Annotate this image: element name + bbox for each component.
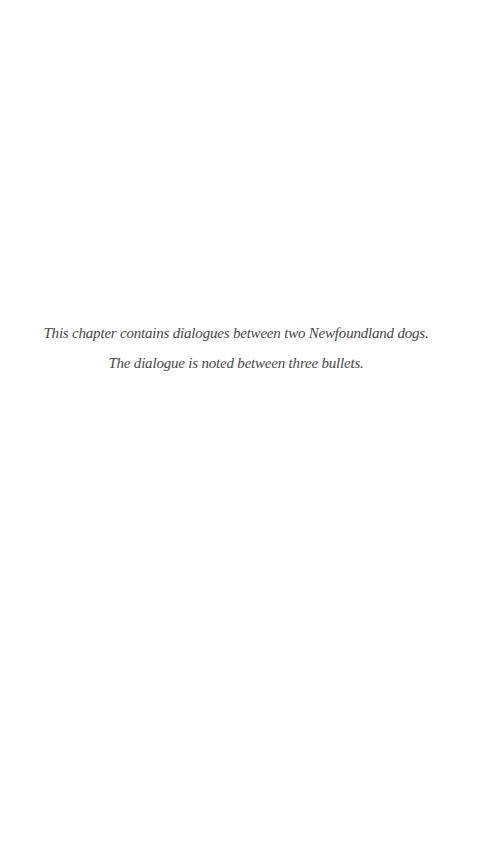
book-page: This chapter contains dialogues between … (0, 0, 484, 867)
chapter-note-line-2: The dialogue is noted between three bull… (0, 353, 478, 373)
chapter-note-line-1: This chapter contains dialogues between … (0, 323, 478, 343)
